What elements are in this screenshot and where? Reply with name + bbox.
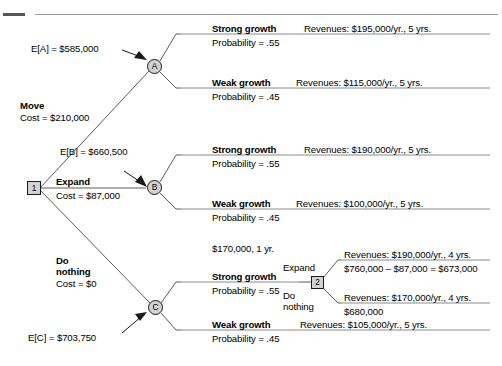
move-weak-growth-name: Weak growth	[212, 77, 270, 89]
move-label: Move	[20, 100, 44, 112]
stage2-expand-value: $760,000 – $87,000 = $673,000	[344, 263, 477, 275]
do-nothing-weak-growth-outcome: Revenues: $105,000/yr., 5 yrs.	[300, 319, 427, 331]
do-nothing-strong-growth-probability: Probability = .55	[212, 285, 279, 297]
move-strong-growth-name: Strong growth	[212, 23, 276, 35]
do-nothing-weak-growth-probability: Probability = .45	[212, 333, 279, 345]
decision-node-2[interactable]: 2	[311, 276, 324, 289]
do-nothing-interim-value: $170,000, 1 yr.	[212, 243, 274, 255]
expected-value-a: E[A] = $585,000	[31, 43, 99, 55]
stage2-do-nothing-outcome: Revenues: $170,000/yr., 4 yrs.	[344, 292, 471, 304]
expand-strong-growth-name: Strong growth	[212, 144, 276, 156]
top-dash-mark	[3, 13, 25, 16]
chance-node-b[interactable]: B	[147, 180, 162, 195]
expected-value-b: E[B] = $660,500	[60, 146, 128, 158]
expand-weak-growth-probability: Probability = .45	[212, 212, 279, 224]
expand-weak-growth-outcome: Revenues: $100,000/yr., 5 yrs.	[296, 198, 423, 210]
expand-weak-growth-name: Weak growth	[212, 198, 270, 210]
do-nothing-label-line1: Do	[56, 255, 69, 267]
expand-strong-growth-outcome: Revenues: $190,000/yr., 5 yrs.	[304, 144, 431, 156]
move-weak-growth-outcome: Revenues: $115,000/yr., 5 yrs.	[296, 77, 422, 89]
chance-node-a[interactable]: A	[147, 59, 162, 74]
decision-tree-figure: 1 A B C 2 E[A] = $585,000 E[B] = $660,50…	[0, 0, 502, 366]
chance-node-c[interactable]: C	[148, 300, 163, 315]
stage2-expand-outcome: Revenues: $190,000/yr., 4 yrs.	[344, 249, 471, 261]
do-nothing-weak-growth-name: Weak growth	[212, 319, 270, 331]
do-nothing-strong-growth-name: Strong growth	[212, 271, 276, 283]
expand-strong-growth-probability: Probability = .55	[212, 158, 279, 170]
move-strong-growth-probability: Probability = .55	[212, 37, 279, 49]
do-nothing-label-line2: nothing	[56, 266, 90, 278]
expand-cost: Cost = $87,000	[56, 190, 120, 202]
move-cost: Cost = $210,000	[20, 112, 89, 124]
do-nothing-cost: Cost = $0	[56, 278, 96, 290]
top-horizontal-rule	[35, 14, 498, 15]
decision-node-1[interactable]: 1	[27, 181, 41, 195]
stage2-do-nothing-value: $680,000	[344, 306, 383, 318]
expand-label: Expand	[56, 176, 90, 188]
move-strong-growth-outcome: Revenues: $195,000/yr., 5 yrs.	[304, 23, 431, 35]
stage2-do-nothing-label-line1: Do	[283, 290, 295, 302]
move-weak-growth-probability: Probability = .45	[212, 91, 279, 103]
expected-value-c: E[C] = $703,750	[28, 332, 96, 344]
stage2-expand-label: Expand	[283, 262, 315, 274]
stage2-do-nothing-label-line2: nothing	[283, 301, 314, 313]
